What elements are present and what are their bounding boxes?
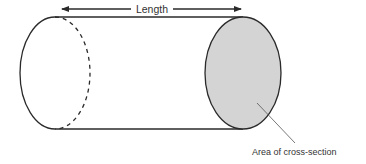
- length-label: Length: [136, 3, 168, 15]
- cross-section-label: Area of cross-section: [252, 147, 337, 157]
- cross-section-ellipse: [205, 17, 281, 129]
- cross-section-leader-line: [257, 103, 295, 143]
- length-arrow: Length: [62, 3, 241, 15]
- left-end-visible-arc: [20, 17, 55, 129]
- left-end-hidden-arc: [55, 17, 90, 129]
- cylinder-left-end: [20, 17, 90, 129]
- cylinder-diagram: Length Area of cross-section: [0, 0, 366, 164]
